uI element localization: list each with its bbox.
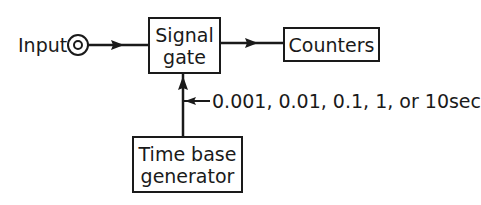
coaxial-input-jack-icon <box>68 35 88 55</box>
signal-gate-block: Signal gate <box>148 17 221 74</box>
counters-block: Counters <box>283 27 380 62</box>
input-label: Input <box>18 34 67 56</box>
counters-label: Counters <box>289 34 375 56</box>
gate-time-selection-arrow <box>184 97 210 105</box>
signal-gate-label-line2: gate <box>163 46 206 68</box>
time-base-label-line1: Time base <box>139 143 237 165</box>
time-base-generator-block: Time base generator <box>132 136 243 193</box>
gate-to-counters-arrow <box>220 38 284 48</box>
time-base-label-line2: generator <box>141 165 235 187</box>
signal-gate-label-line1: Signal <box>155 24 213 46</box>
input-to-gate-arrow <box>88 40 148 50</box>
timebase-to-gate-arrow <box>178 73 188 137</box>
gate-time-options-label: 0.001, 0.01, 0.1, 1, or 10sec <box>212 90 481 112</box>
